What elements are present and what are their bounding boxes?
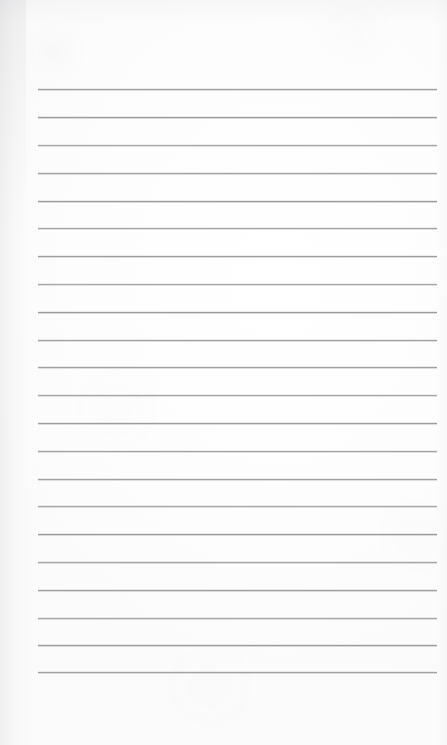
ruled-line [38, 201, 437, 202]
ruled-line [38, 173, 437, 174]
ruled-line [38, 284, 437, 285]
ruled-line [38, 451, 437, 452]
ruled-line [38, 534, 437, 535]
ruled-line [38, 423, 437, 424]
ruled-line [38, 645, 437, 646]
ruled-line [38, 228, 437, 229]
ruled-line [38, 618, 437, 619]
ruled-line [38, 506, 437, 507]
ruled-lines-group [0, 0, 447, 745]
ruled-line [38, 479, 437, 480]
ruled-line [38, 395, 437, 396]
ruled-line [38, 256, 437, 257]
ruled-line [38, 590, 437, 591]
ruled-line [38, 562, 437, 563]
ruled-line [38, 367, 437, 368]
ruled-line [38, 89, 437, 90]
ruled-line [38, 312, 437, 313]
ruled-line [38, 145, 437, 146]
ruled-line [38, 340, 437, 341]
scanned-page [0, 0, 447, 745]
ruled-line [38, 672, 437, 673]
ruled-line [38, 117, 437, 118]
